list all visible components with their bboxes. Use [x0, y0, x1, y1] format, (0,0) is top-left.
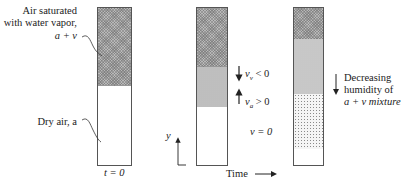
saturated-leader-line	[82, 36, 102, 56]
y-axis-arrow-icon	[178, 140, 186, 165]
dry-air-leader-line	[82, 119, 101, 142]
annotation-lines	[0, 0, 407, 182]
